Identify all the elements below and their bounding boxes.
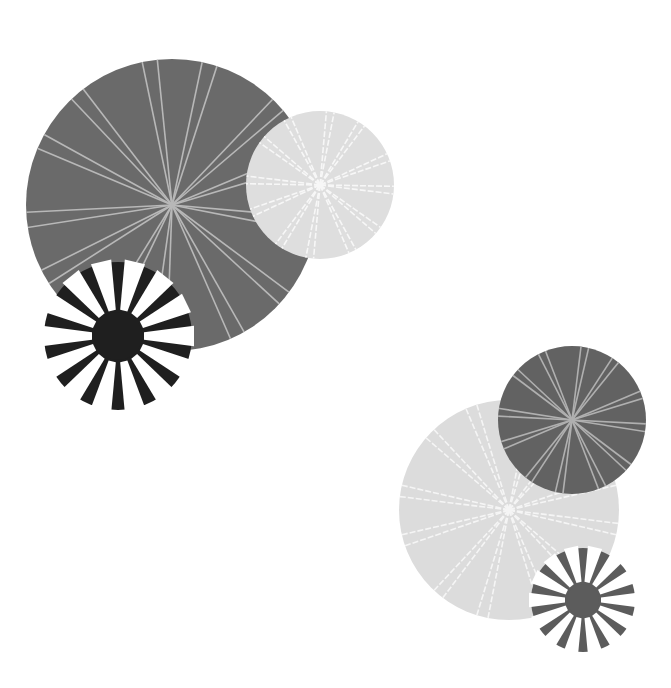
decorative-circles-artwork [0, 0, 671, 688]
bottom-right-circle-group [394, 343, 649, 654]
gray-burst-circle-hub [567, 584, 599, 616]
black-burst-circle [42, 260, 194, 413]
gray-burst-circle [529, 546, 637, 655]
top-left-circle-group [19, 52, 398, 412]
black-burst-circle-hub [94, 312, 142, 360]
